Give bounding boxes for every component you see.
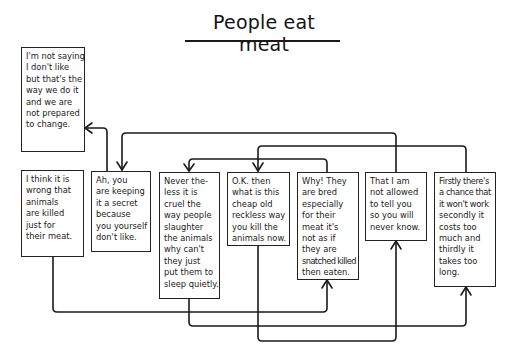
box-text-line: the animals (164, 233, 216, 244)
connector-notallowed-to-ahyou (122, 133, 396, 172)
box-text-line: slaughter (164, 222, 216, 233)
box-text-line: long. (439, 267, 492, 278)
connector-why-to-nevertheless (189, 159, 327, 172)
box-text-line: less it is (164, 187, 216, 198)
box-text-line: snatched killed (302, 256, 355, 267)
box-nevertheless: Never the- less it is cruel the way peop… (159, 172, 220, 299)
arrowhead-okthen (253, 163, 263, 171)
box-text-line: their meat. (26, 231, 80, 242)
box-text-line: to change. (26, 119, 81, 130)
box-text-line: are bred (302, 187, 355, 198)
arrowhead-notallowed (391, 241, 401, 249)
title-underline (185, 40, 340, 42)
box-why: Why! They are bred especially for their … (297, 172, 359, 280)
box-text-line: to tell you (370, 199, 423, 210)
box-text-line: you kill the (232, 222, 286, 233)
box-ok-then: O.K. then what is this cheap old reckles… (227, 172, 290, 246)
connector-ahyou-to-notsaying (85, 128, 107, 171)
box-text-line: Why! They (302, 176, 355, 187)
box-text-line: much and (439, 233, 492, 244)
box-text-line: and we are (26, 97, 81, 108)
box-text-line: so you will (370, 210, 423, 221)
connector-nevertheless-to-firstly (189, 287, 466, 326)
box-text-line: you yourself (96, 221, 147, 232)
box-text-line: O.K. then (232, 176, 286, 187)
box-text-line: meat it's (302, 222, 355, 233)
arrowhead-why (322, 280, 332, 288)
arrowhead-ahyou (117, 162, 127, 170)
box-text-line: then eaten. (302, 267, 355, 278)
box-text-line: secondly it (439, 210, 492, 221)
box-text-line: way we do it (26, 85, 81, 96)
diagram-title: People eat meat (186, 11, 342, 55)
box-text-line: not prepared (26, 108, 81, 119)
box-text-line: just for (26, 220, 80, 231)
box-text-line: not allowed (370, 187, 423, 198)
box-text-line: animals (26, 197, 80, 208)
box-text-line: I don't like (26, 62, 81, 73)
box-text-line: why can't (164, 244, 216, 255)
box-text-line: Firstly there's (439, 176, 492, 187)
box-text-line: a chance that (439, 187, 492, 198)
arrowhead-notsaying (85, 123, 92, 133)
box-text-line: are killed (26, 208, 80, 219)
box-text-line: way people (164, 210, 216, 221)
box-text-line: I think it is (26, 174, 80, 185)
box-text-line: Never the- (164, 176, 216, 187)
box-text-line: takes too (439, 256, 492, 267)
arrowhead-nevertheless (184, 164, 194, 171)
box-text-line: sleep quietly. (164, 279, 216, 290)
box-text-line: thirdly it (439, 244, 492, 255)
box-firstly: Firstly there's a chance that it won't w… (434, 172, 496, 287)
box-text-line: they are (302, 244, 355, 255)
box-text-line: reckless way (232, 210, 286, 221)
box-text-line: I'm not saying (26, 51, 81, 62)
box-not-allowed: That I am not allowed to tell you so you… (365, 172, 427, 241)
box-text-line: Ah, you (96, 175, 147, 186)
box-ah-you: Ah, you are keeping it a secret because … (91, 171, 151, 252)
box-text-line: put them to (164, 267, 216, 278)
box-text-line: wrong that (26, 185, 80, 196)
box-text-line: it a secret (96, 198, 147, 209)
box-text-line: are keeping (96, 186, 147, 197)
arrowhead-firstly (461, 287, 471, 295)
box-text-line: because (96, 209, 147, 220)
box-text-line: don't like. (96, 232, 147, 243)
box-text-line: cheap old (232, 199, 286, 210)
box-text-line: never know. (370, 222, 423, 233)
box-text-line: but that's the (26, 74, 81, 85)
box-i-think: I think it is wrong that animals are kil… (21, 170, 84, 257)
box-text-line: especially (302, 199, 355, 210)
box-text-line: they just (164, 256, 216, 267)
box-not-saying: I'm not saying I don't like but that's t… (21, 47, 85, 152)
box-text-line: not as if (302, 233, 355, 244)
connector-firstly-to-okthen (258, 146, 466, 172)
box-text-line: it won't work (439, 199, 492, 210)
box-text-line: cruel the (164, 199, 216, 210)
box-text-line: That I am (370, 176, 423, 187)
box-text-line: animals now. (232, 233, 286, 244)
box-text-line: for their (302, 210, 355, 221)
box-text-line: what is this (232, 187, 286, 198)
box-text-line: costs too (439, 222, 492, 233)
